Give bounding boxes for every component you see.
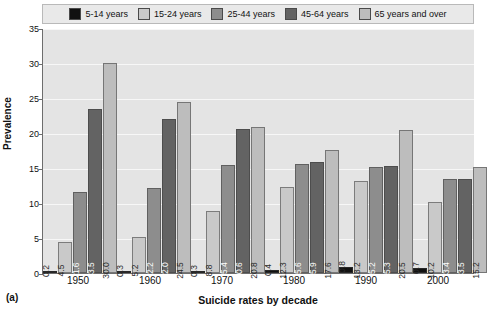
bar: 24.5 (177, 102, 191, 274)
panel-label: (a) (6, 292, 18, 303)
suicide-rates-bar-chart: 5-14 years 15-24 years 25-44 years 45-64… (0, 0, 488, 321)
x-tick-label: 1950 (42, 275, 114, 291)
y-axis-title: Prevalence (2, 97, 13, 150)
legend-swatch-2 (211, 8, 223, 20)
y-tick-label: 35 (29, 24, 39, 34)
legend-item-0: 5-14 years (69, 8, 128, 20)
bar: 15.4 (221, 165, 235, 273)
x-tick-label: 2000 (402, 275, 474, 291)
bar: 12.3 (280, 187, 294, 273)
bar: 20.5 (399, 130, 413, 274)
legend-label-4: 65 years and over (375, 9, 447, 19)
bar-group: 0.24.511.623.530.0 (43, 29, 117, 273)
y-tick-label: 25 (29, 94, 39, 104)
chart-legend: 5-14 years 15-24 years 25-44 years 45-64… (42, 4, 474, 24)
legend-item-3: 45-64 years (285, 8, 349, 20)
plot-area: 05101520253035 0.24.511.623.530.00.35.21… (42, 29, 474, 274)
bar: 20.6 (236, 129, 250, 273)
x-tick-label: 1980 (258, 275, 330, 291)
bar-group: 0.710.213.413.515.2 (413, 29, 487, 273)
bar: 17.6 (325, 150, 339, 273)
x-tick-label: 1990 (330, 275, 402, 291)
legend-item-1: 15-24 years (138, 8, 202, 20)
bar-group: 0.412.315.615.917.6 (265, 29, 339, 273)
x-axis-ticks: 195019601970198019902000 (42, 275, 474, 291)
legend-swatch-0 (69, 8, 81, 20)
legend-label-0: 5-14 years (85, 9, 128, 19)
bar-group: 0.813.215.215.320.5 (339, 29, 413, 273)
bar: 15.6 (295, 164, 309, 273)
x-tick-label: 1970 (186, 275, 258, 291)
y-tick-label: 20 (29, 129, 39, 139)
bar: 13.4 (443, 179, 457, 273)
bar: 12.2 (147, 188, 161, 273)
legend-swatch-1 (138, 8, 150, 20)
y-tick-label: 10 (29, 199, 39, 209)
bar-groups: 0.24.511.623.530.00.35.212.222.024.50.38… (43, 29, 474, 273)
x-tick-label: 1960 (114, 275, 186, 291)
legend-swatch-4 (359, 8, 371, 20)
bar: 30.0 (103, 63, 117, 273)
y-tick-label: 30 (29, 59, 39, 69)
legend-swatch-3 (285, 8, 297, 20)
bar: 22.0 (162, 119, 176, 273)
bar: 15.2 (473, 167, 487, 273)
bar-value-label: 0.7 (412, 262, 421, 274)
bar-group: 0.35.212.222.024.5 (117, 29, 191, 273)
legend-item-2: 25-44 years (211, 8, 275, 20)
x-axis-title: Suicide rates by decade (42, 294, 474, 306)
legend-label-3: 45-64 years (301, 9, 349, 19)
legend-label-2: 25-44 years (227, 9, 275, 19)
bar-value-label: 0.8 (338, 261, 347, 273)
bar: 13.5 (458, 179, 472, 274)
bar: 15.3 (384, 166, 398, 273)
bar: 23.5 (88, 109, 102, 274)
bar: 20.8 (251, 127, 265, 273)
bar-group: 0.38.815.420.620.8 (191, 29, 265, 273)
legend-label-1: 15-24 years (154, 9, 202, 19)
bar: 13.2 (354, 181, 368, 273)
y-tick-label: 15 (29, 164, 39, 174)
bar: 15.2 (369, 167, 383, 273)
legend-item-4: 65 years and over (359, 8, 447, 20)
bar: 15.9 (310, 162, 324, 273)
